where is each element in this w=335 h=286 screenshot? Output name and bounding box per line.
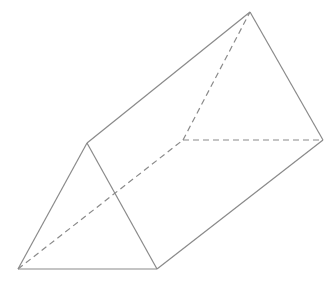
visible-edge-BE xyxy=(157,140,323,269)
hidden-edges xyxy=(18,12,323,269)
visible-edge-DE xyxy=(250,12,323,140)
visible-edge-CA xyxy=(18,143,87,269)
hidden-edge-FD xyxy=(183,12,250,140)
prism-diagram xyxy=(0,0,335,286)
visible-edge-BC xyxy=(87,143,157,269)
visible-edge-CD xyxy=(87,12,250,143)
hidden-edge-AF xyxy=(18,140,183,269)
